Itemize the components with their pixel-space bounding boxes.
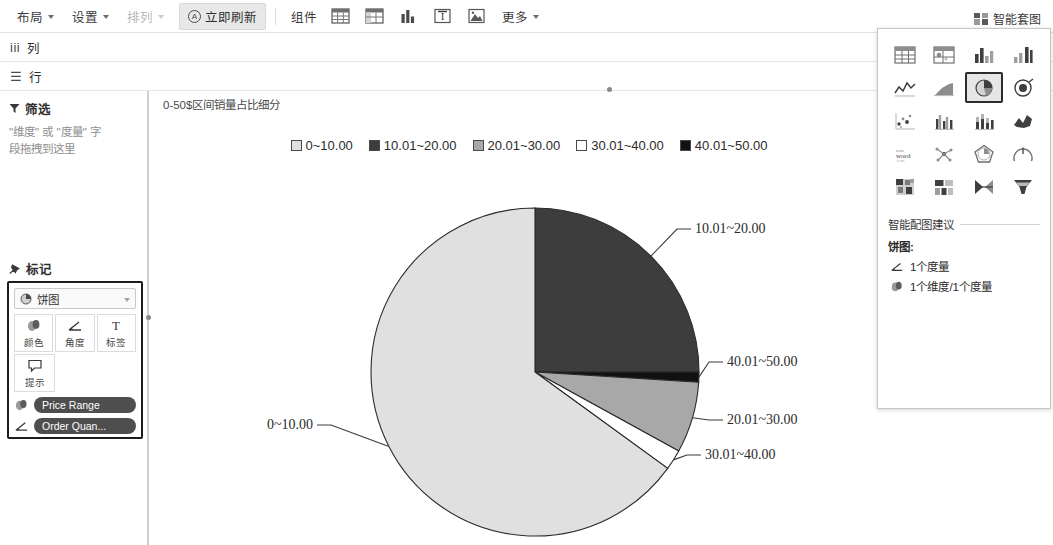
funnel-icon: [1011, 176, 1035, 198]
rows-icon: ☰: [10, 69, 22, 84]
chevron-down-icon: [124, 298, 130, 302]
network-icon: [932, 143, 956, 165]
menu-arrange: 排列: [118, 4, 173, 29]
refresh-now-label: 立即刷新: [205, 7, 257, 26]
chart-type-symbol-map[interactable]: [1005, 39, 1043, 70]
mark-pill-row-color: Price Range: [14, 397, 136, 413]
mark-pill-order-quantity[interactable]: Order Quan...: [34, 418, 136, 434]
pie-chart-icon: [972, 77, 996, 99]
mark-button-label[interactable]: T 标签: [97, 314, 136, 352]
mark-buttons-row-1: 颜色 角度 T 标签: [14, 314, 136, 352]
chart-type-treemap[interactable]: [886, 171, 924, 202]
mark-pill-price-range[interactable]: Price Range: [34, 397, 136, 413]
chart-type-heat-map[interactable]: [926, 39, 964, 70]
polygon-icon: [972, 143, 996, 165]
chart-type-highlight-table[interactable]: [965, 39, 1003, 70]
pie-leader-line: [317, 425, 389, 446]
side-by-side-bar-icon: [932, 110, 956, 132]
chart-type-pie-chart[interactable]: [965, 72, 1003, 103]
mark-button-tooltip[interactable]: 提示: [14, 354, 55, 392]
menu-arrange-label: 排列: [127, 7, 153, 26]
rows-shelf-label: 行: [29, 67, 42, 86]
gauge-icon: [1011, 143, 1035, 165]
tableau-workbook-window: 布局 设置 排列 A 立即刷新 组件: [0, 0, 1053, 545]
pie-slice-label: 40.01~50.00: [727, 354, 798, 369]
text-table-icon: [893, 44, 917, 66]
mark-button-angle-label: 角度: [65, 335, 85, 349]
dual-line-icon: [1011, 110, 1035, 132]
mark-button-label-label: 标签: [106, 335, 126, 349]
chevron-down-icon: [48, 15, 54, 19]
components-label: 组件: [285, 7, 323, 26]
marks-header: 标记: [9, 259, 52, 278]
chart-type-grid: notewordterm: [878, 29, 1050, 208]
crosstab-icon[interactable]: [363, 7, 385, 26]
mark-button-angle[interactable]: 角度: [55, 314, 94, 352]
menu-settings-label: 设置: [72, 7, 98, 26]
chart-type-text-table[interactable]: [886, 39, 924, 70]
chart-type-line-chart[interactable]: [886, 72, 924, 103]
angle-icon: [890, 260, 904, 273]
show-me-suggestion-header: 智能配图建议: [878, 208, 1050, 232]
table-icon[interactable]: [329, 7, 351, 26]
menu-more[interactable]: 更多: [493, 4, 548, 29]
show-me-suggestion-title: 智能配图建议: [888, 216, 954, 232]
bowtie-icon: [972, 176, 996, 198]
chart-type-word-cloud[interactable]: notewordterm: [886, 138, 924, 169]
bar-chart-icon[interactable]: [397, 7, 419, 26]
mark-type-dropdown[interactable]: 饼图: [14, 288, 136, 309]
area-chart-icon: [932, 77, 956, 99]
chart-type-box-grid[interactable]: [926, 171, 964, 202]
show-me-requirement-measure-text: 1个度量: [910, 258, 949, 274]
stacked-bar-icon: [972, 110, 996, 132]
pie-leader-line: [673, 455, 701, 460]
chart-type-network[interactable]: [926, 138, 964, 169]
menu-layout[interactable]: 布局: [8, 4, 63, 29]
pin-icon: [9, 263, 21, 275]
tooltip-icon: [27, 358, 43, 373]
show-me-button[interactable]: 智能套图: [970, 8, 1045, 29]
pie-slice[interactable]: [535, 208, 699, 372]
pie-leader-line: [699, 362, 723, 377]
menu-more-label: 更多: [502, 7, 528, 26]
angle-icon: [67, 318, 83, 333]
chart-type-funnel[interactable]: [1005, 171, 1043, 202]
columns-icon: iii: [10, 40, 20, 55]
svg-text:T: T: [112, 318, 120, 333]
mark-button-color[interactable]: 颜色: [14, 314, 53, 352]
pie-slice-label: 20.01~30.00: [727, 412, 798, 427]
chart-type-side-by-side-bar[interactable]: [926, 105, 964, 136]
chart-type-dual-line[interactable]: [1005, 105, 1043, 136]
chart-type-polygon[interactable]: [965, 138, 1003, 169]
treemap-icon: [893, 176, 917, 198]
columns-shelf-label: 列: [27, 38, 40, 57]
filters-card[interactable]: 筛选 "维度" 或 "度量" 字 段拖拽到这里: [0, 91, 147, 158]
left-cards-panel: 筛选 "维度" 或 "度量" 字 段拖拽到这里 标记 饼图: [0, 91, 148, 545]
refresh-icon: A: [188, 10, 201, 23]
label-icon: T: [108, 318, 124, 333]
show-me-button-label: 智能套图: [993, 10, 1041, 27]
mark-button-tooltip-label: 提示: [25, 375, 45, 389]
chart-type-stacked-bar[interactable]: [965, 105, 1003, 136]
chart-type-gauge[interactable]: [1005, 138, 1043, 169]
symbol-map-icon: [1011, 44, 1035, 66]
image-icon[interactable]: [465, 7, 487, 26]
refresh-now-button[interactable]: A 立即刷新: [179, 3, 266, 30]
filters-hint: "维度" 或 "度量" 字 段拖拽到这里: [9, 124, 138, 158]
chart-type-bowtie[interactable]: [965, 171, 1003, 202]
show-me-requirement-dimension: 1个维度/1个度量: [878, 274, 1050, 294]
heat-map-icon: [932, 44, 956, 66]
filters-header: 筛选: [9, 99, 138, 118]
toolbar-divider: [275, 8, 276, 25]
mark-type-value: 饼图: [37, 291, 59, 307]
box-grid-icon: [932, 176, 956, 198]
menu-settings[interactable]: 设置: [63, 4, 118, 29]
filled-map-icon: [1011, 77, 1035, 99]
scatter-plot-icon: [893, 110, 917, 132]
chart-type-scatter-plot[interactable]: [886, 105, 924, 136]
chart-type-area-chart[interactable]: [926, 72, 964, 103]
chart-type-filled-map[interactable]: [1005, 72, 1043, 103]
line-chart-icon: [893, 77, 917, 99]
text-box-icon[interactable]: I: [431, 7, 453, 26]
color-icon: [26, 318, 42, 333]
